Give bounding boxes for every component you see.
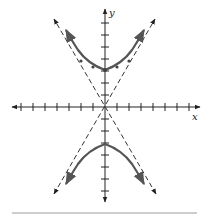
point <box>115 65 118 68</box>
point <box>91 65 94 68</box>
point-vertex <box>103 68 107 72</box>
hyperbola-graph: x y <box>0 0 207 220</box>
point <box>79 59 82 62</box>
x-axis-label: x <box>192 111 198 122</box>
point <box>127 59 130 62</box>
y-axis-label: y <box>108 7 115 18</box>
y-axis: y <box>101 7 115 202</box>
